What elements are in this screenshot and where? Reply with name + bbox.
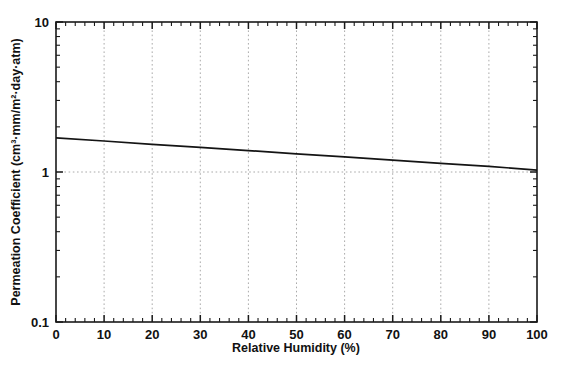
x-tick-label: 80 [434, 327, 448, 342]
y-axis-title: Permeation Coefficient (cm³·mm/m²·day·at… [9, 38, 23, 305]
x-tick-label: 60 [337, 327, 351, 342]
chart-background [0, 0, 563, 368]
x-tick-label: 50 [289, 327, 303, 342]
x-tick-label: 100 [526, 327, 548, 342]
chart-svg: 0102030405060708090100 0.1110 Relative H… [0, 0, 563, 368]
y-tick-label: 0.1 [31, 315, 49, 330]
y-tick-label: 10 [35, 15, 49, 30]
y-tick-label: 1 [42, 165, 49, 180]
permeation-vs-humidity-chart: 0102030405060708090100 0.1110 Relative H… [0, 0, 563, 368]
x-axis-title: Relative Humidity (%) [232, 341, 360, 355]
x-tick-label: 70 [385, 327, 399, 342]
x-tick-label: 40 [241, 327, 255, 342]
x-tick-label: 10 [97, 327, 111, 342]
x-tick-label: 30 [193, 327, 207, 342]
x-tick-label: 90 [482, 327, 496, 342]
x-tick-label: 20 [145, 327, 159, 342]
x-tick-label: 0 [52, 327, 59, 342]
